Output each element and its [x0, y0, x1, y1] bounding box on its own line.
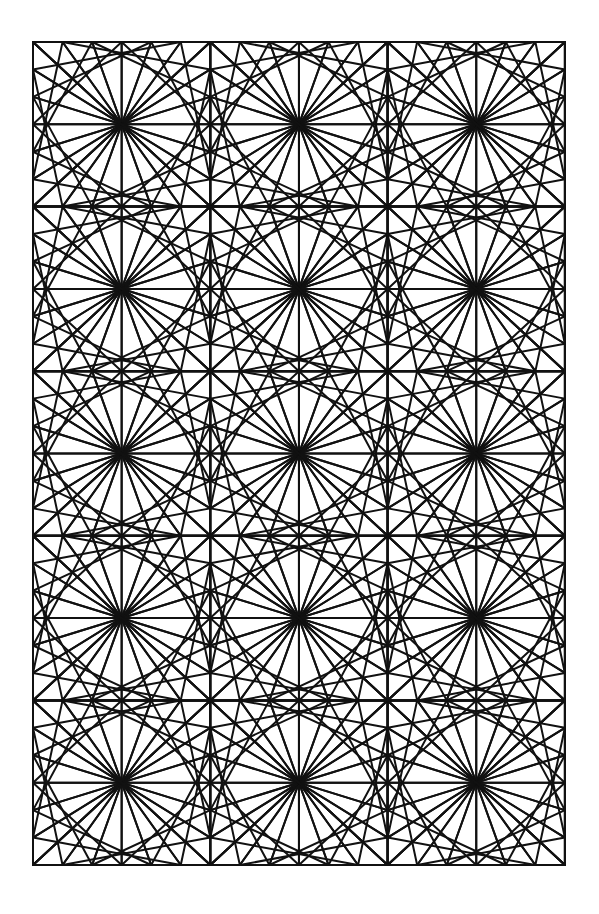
curve-stitch-pattern	[0, 0, 599, 914]
artwork-canvas: Curve-Stitch Geometric Line Pattern	[0, 0, 599, 914]
